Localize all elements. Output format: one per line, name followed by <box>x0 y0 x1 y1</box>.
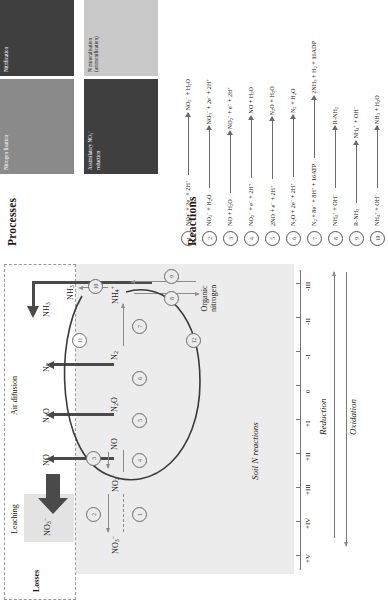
step-circle-3: 3 <box>86 451 101 466</box>
reaction-arrow-6 <box>293 115 294 177</box>
oxidation-state-label-6: -I <box>304 354 312 359</box>
reaction-arrow-1 <box>188 113 189 175</box>
legend-mineralisation-label: N mineralisation(ammonification) <box>87 36 99 72</box>
reaction-number-7: 7 <box>307 231 322 246</box>
oxidation-state-label-4: +I <box>304 421 312 427</box>
loss-species-no3: NO3− <box>42 518 52 536</box>
legend-n-mineralisation: N mineralisation(ammonification) <box>84 0 158 76</box>
legend-assimilatory-label: Assimilatory NO3−reduction <box>87 131 101 170</box>
oxidation-tick-1 <box>296 521 301 522</box>
oxidation-label: Oxidation <box>348 399 358 435</box>
oxidation-state-label-2: +III <box>304 484 312 495</box>
oxidation-arrow <box>346 272 347 546</box>
losses-title: Losses <box>32 570 41 592</box>
oxidation-tick-2 <box>296 487 301 488</box>
reaction-products-5: N2O + H2O <box>268 86 276 115</box>
step-circle-2: 2 <box>86 507 101 522</box>
reaction-reactants-8: NH4+ + OH− <box>331 190 339 231</box>
reaction-products-6: N2 + H2O <box>289 89 297 114</box>
oxidation-state-label-8: -III <box>304 282 312 291</box>
reaction-reactants-6: N2O + 2e− + 2H+ <box>289 179 297 231</box>
reaction-products-4: NO + H2O <box>247 87 255 114</box>
reaction-arrow-2 <box>209 126 210 188</box>
oxidation-tick-5 <box>296 385 301 386</box>
legend-nitrogen-fixation: Nitrogen fixation <box>0 79 74 174</box>
step-circle-11: 11 <box>72 333 87 348</box>
oxidation-tick-4 <box>296 419 301 420</box>
reaction-arrow-9 <box>356 141 357 203</box>
oxidation-tick-3 <box>296 453 301 454</box>
reaction-arrow-10 <box>377 126 378 188</box>
step-circle-7: 7 <box>132 319 147 334</box>
nh3-escape-arrowhead <box>26 304 40 318</box>
reaction-reactants-2: NO2− + H2O <box>205 190 213 231</box>
reaction-row-6: 6N2O + 2e− + 2H+N2 + H2O <box>283 41 304 246</box>
processes-heading: Processes <box>6 198 18 246</box>
step-circle-6: 6 <box>132 371 147 386</box>
loss-species-nh3: NH3 <box>42 302 51 317</box>
reaction-number-10: 10 <box>370 231 385 246</box>
reaction-number-4: 4 <box>244 231 259 246</box>
reaction-products-3: NO2− + e− + 2H+ <box>226 87 234 129</box>
reaction-products-1: NO2− + H2O <box>184 79 192 111</box>
oxidation-state-label-7: -II <box>304 318 312 325</box>
reaction-row-7: 7N2 + 8e− + 8H+ + 16ATP2NH3 + H2 + 16ADP <box>304 41 325 246</box>
reaction-reactants-10: NH4+ + OH− <box>373 190 381 231</box>
reaction-row-9: 9R-NH2NH4+ + OH− <box>346 41 367 246</box>
reaction-row-10: 10NH4+ + OH−NH3 + H2O <box>367 41 388 246</box>
oxidation-tick-8 <box>296 283 301 284</box>
reaction-products-2: NO3− + 2e− + 2H+ <box>205 79 213 124</box>
reaction-number-8: 8 <box>328 231 343 246</box>
step-circle-9: 9 <box>164 269 179 284</box>
reaction-row-1: 1NO3− + 2e− + 2H+NO2− + H2O <box>178 41 199 246</box>
step-circle-5: 5 <box>132 413 147 428</box>
leaching-title: Leaching <box>10 504 19 534</box>
reaction-reactants-7: N2 + 8e− + 8H+ + 16ATP <box>310 160 318 231</box>
reaction-number-1: 1 <box>181 231 196 246</box>
reaction-row-8: 8NH4+ + OH−R-NH2 <box>325 41 346 246</box>
oxidation-axis-line <box>300 270 301 570</box>
reaction-reactants-9: R-NH2 <box>352 205 360 231</box>
reaction-reactants-4: NO2− + e− + 2H+ <box>247 180 255 231</box>
step-circle-12: 12 <box>186 333 201 348</box>
reaction-number-6: 6 <box>286 231 301 246</box>
legend-and-reactions-panel: Processes Nitrogen fixation Nitrificatio… <box>0 0 330 246</box>
arrow-no2-to-no3-reverse <box>108 494 109 532</box>
reaction-arrow-8 <box>335 126 336 188</box>
reaction-products-7: 2NH3 + H2 + 16ADP <box>310 41 318 94</box>
legend-group-left: Nitrogen fixation Nitrification Denitrif… <box>0 0 74 174</box>
reduction-label: Reduction <box>318 399 328 436</box>
reaction-arrow-4 <box>251 116 252 178</box>
reaction-number-3: 3 <box>223 231 238 246</box>
soil-title: Soil N reactions <box>250 422 260 480</box>
reaction-reactants-5: 2NO + e− + 2H+ <box>269 181 276 231</box>
step-circle-1: 1 <box>132 507 147 522</box>
reactions-list: 1NO3− + 2e− + 2H+NO2− + H2O2NO2− + H2ONO… <box>178 41 388 246</box>
oxidation-state-label-5: 0 <box>304 390 312 394</box>
reaction-products-8: R-NH2 <box>331 107 339 124</box>
oxidation-state-label-3: +II <box>304 452 312 461</box>
reaction-number-2: 2 <box>202 231 217 246</box>
legend-nitrogen-fixation-label: Nitrogen fixation <box>3 135 9 170</box>
legend-nitrification: Nitrification <box>0 0 74 76</box>
reaction-products-10: NH3 + H2O <box>373 95 381 124</box>
reaction-products-9: NH4+ + OH− <box>352 107 360 139</box>
step-circle-10: 10 <box>88 279 103 294</box>
oxidation-tick-6 <box>296 351 301 352</box>
oxidation-state-label-0: +V <box>304 554 312 563</box>
reaction-reactants-1: NO3− + 2e− + 2H+ <box>184 177 192 231</box>
oxidation-tick-7 <box>296 317 301 318</box>
reaction-reactants-3: NO + H2O <box>226 195 234 231</box>
legend-group-right: Assimilatory NO3−reduction N mineralisat… <box>84 0 158 174</box>
reduction-arrow <box>334 272 335 538</box>
nitrogen-cycle-diagram: Losses Leaching Air difusion NO3− NO N2O… <box>4 264 352 600</box>
legend-assimilatory-no3-reduction: Assimilatory NO3−reduction <box>84 79 158 174</box>
reaction-row-5: 52NO + e− + 2H+N2O + H2O <box>262 41 283 246</box>
reaction-row-3: 3NO + H2ONO2− + e− + 2H+ <box>220 41 241 246</box>
reaction-arrow-5 <box>272 117 273 179</box>
reaction-arrow-3 <box>230 131 231 193</box>
soil-species-no3: NO3− <box>110 536 120 554</box>
reaction-number-9: 9 <box>349 231 364 246</box>
reaction-arrow-7 <box>314 96 315 158</box>
